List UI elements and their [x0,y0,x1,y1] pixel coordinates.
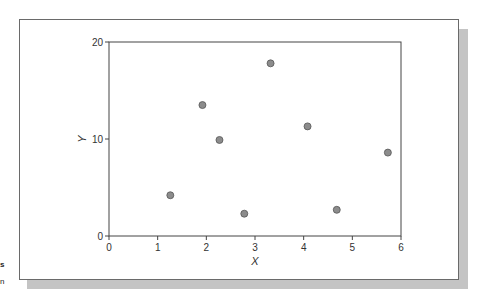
data-point [167,192,174,199]
x-axis: 0123456 [106,236,404,253]
x-axis-label: X [250,255,259,267]
plot-area [109,42,401,236]
x-tick-label: 6 [398,242,404,253]
y-axis: 01020 [92,37,109,242]
data-point [333,206,340,213]
data-point [267,60,274,67]
y-tick-label: 20 [92,37,104,48]
y-tick-label: 10 [92,134,104,145]
x-tick-label: 5 [350,242,356,253]
data-point [199,102,206,109]
data-point [384,149,391,156]
x-tick-label: 0 [106,242,112,253]
data-point [216,136,223,143]
x-tick-label: 3 [252,242,258,253]
x-tick-label: 2 [204,242,210,253]
x-tick-label: 4 [301,242,307,253]
scatter-plot: 0123456 01020 X Y [0,0,482,302]
x-tick-label: 1 [155,242,161,253]
y-tick-label: 0 [97,231,103,242]
data-point [304,123,311,130]
y-axis-label: Y [76,135,88,143]
data-point [241,210,248,217]
